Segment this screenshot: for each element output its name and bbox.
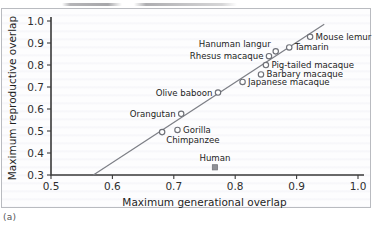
data-point-label: Mouse lemur xyxy=(316,32,372,42)
x-tick-label: 0.8 xyxy=(227,180,244,192)
x-tick-label: 0.5 xyxy=(43,180,60,192)
data-point-label: Tamarin xyxy=(294,42,329,52)
data-point-label: Human xyxy=(199,153,230,163)
x-tick-label: 1.0 xyxy=(350,180,367,192)
data-point-marker[interactable] xyxy=(240,79,245,84)
y-tick-label: 0.9 xyxy=(27,37,44,49)
figure-caption: (a) xyxy=(3,212,16,223)
y-tick-label: 0.8 xyxy=(27,59,44,71)
data-point-label: Gorilla xyxy=(183,125,211,135)
data-point-marker[interactable] xyxy=(258,72,263,77)
data-point-marker[interactable] xyxy=(287,45,292,50)
scan-artifact xyxy=(62,3,237,6)
data-point-marker[interactable] xyxy=(159,129,164,134)
y-tick-label: 0.5 xyxy=(27,125,44,137)
x-tick-label: 0.6 xyxy=(104,180,121,192)
data-point-label: Pig-tailed macaque xyxy=(271,60,354,70)
data-point-label: Hanuman langur xyxy=(199,39,271,49)
data-point-label: Orangutan xyxy=(130,109,176,119)
x-axis-title: Maximum generational overlap xyxy=(122,196,287,208)
y-tick-label: 0.3 xyxy=(27,169,44,181)
y-tick-label: 0.4 xyxy=(27,147,44,159)
data-point-label: Rhesus macaque xyxy=(190,51,264,61)
y-tick-label: 1.0 xyxy=(27,15,44,27)
y-tick-label: 0.6 xyxy=(27,103,44,115)
y-tick-label: 0.7 xyxy=(27,81,44,93)
data-point-marker[interactable] xyxy=(266,54,271,59)
y-axis-title: Maximum reproductive overlap xyxy=(6,15,18,180)
data-point-label: Olive baboon xyxy=(156,88,213,98)
scatter-plot: 0.30.40.50.60.70.80.91.00.50.60.70.80.91… xyxy=(2,9,372,209)
x-tick-label: 0.9 xyxy=(288,180,305,192)
figure-panel: 0.30.40.50.60.70.80.91.00.50.60.70.80.91… xyxy=(1,8,371,208)
data-point-marker[interactable] xyxy=(212,165,217,170)
data-point-marker[interactable] xyxy=(307,34,312,39)
data-point-marker[interactable] xyxy=(273,49,278,54)
data-point-marker[interactable] xyxy=(215,90,220,95)
data-point-marker[interactable] xyxy=(178,111,183,116)
x-tick-label: 0.7 xyxy=(165,180,182,192)
data-point-label: Chimpanzee xyxy=(166,135,219,145)
data-point-label: Barbary macaque xyxy=(266,69,343,79)
data-point-marker[interactable] xyxy=(175,127,180,132)
data-point-marker[interactable] xyxy=(263,62,268,67)
